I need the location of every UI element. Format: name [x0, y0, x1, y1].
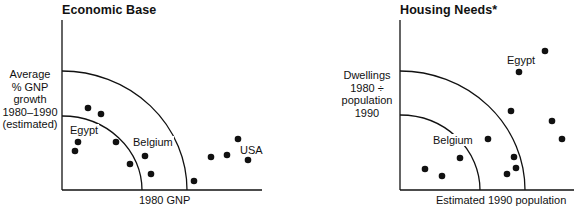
y-axis-label: Dwellings 1980 ÷ population 1990 — [337, 69, 397, 119]
label-egypt: Egypt — [69, 124, 99, 136]
label-belgium: Belgium — [132, 136, 174, 148]
data-points — [422, 48, 566, 180]
label-egypt: Egypt — [506, 54, 536, 66]
housing-needs-plot — [287, 0, 574, 211]
y-axis-label: Average % GNP growth 1980–1990 (estimate… — [0, 68, 60, 131]
inner-arc — [400, 115, 480, 190]
chart-title: Economic Base — [62, 3, 156, 17]
economic-base-chart: Economic Base Average % GNP growth 1980–… — [0, 0, 287, 211]
x-axis-label: 1980 GNP — [139, 194, 190, 207]
label-usa: USA — [239, 144, 264, 156]
housing-needs-chart: Housing Needs* Dwellings 1980 ÷ populati… — [287, 0, 574, 211]
label-belgium: Belgium — [432, 134, 474, 146]
x-axis-label: Estimated 1990 population — [436, 194, 566, 207]
chart-title: Housing Needs* — [400, 3, 497, 17]
